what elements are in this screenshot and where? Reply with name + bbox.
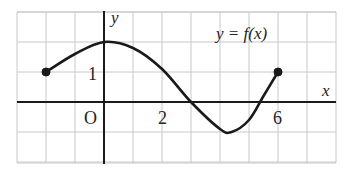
x-tick-label-6: 6	[273, 108, 282, 128]
function-graph: y x O 2 6 1 y = f(x)	[0, 0, 346, 180]
y-tick-label-1: 1	[88, 64, 97, 84]
origin-label: O	[84, 108, 97, 128]
endpoint-dot	[42, 68, 50, 76]
endpoint-dot	[274, 68, 282, 76]
x-axis-label: x	[321, 81, 330, 100]
function-annotation: y = f(x)	[214, 24, 267, 43]
y-axis-label: y	[109, 8, 119, 27]
grid	[17, 12, 336, 163]
x-tick-label-2: 2	[158, 108, 167, 128]
